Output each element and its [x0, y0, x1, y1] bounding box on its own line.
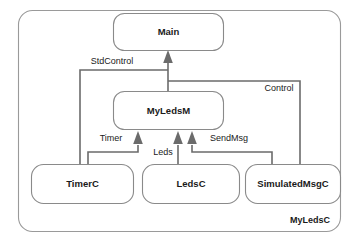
node-simulatedmsgc[interactable]: SimulatedMsgC	[246, 165, 341, 204]
diagram-canvas: Main MyLedsM TimerC LedsC SimulatedMsgC …	[0, 0, 361, 241]
container-myledsc-label: MyLedsC	[290, 215, 331, 225]
edge-label-control: Control	[264, 83, 293, 93]
node-timerc-label: TimerC	[66, 178, 99, 189]
node-ledsc[interactable]: LedsC	[143, 165, 240, 204]
edge-label-timer-group: Timer	[94, 132, 128, 144]
edge-label-sendmsg-group: SendMsg	[204, 132, 254, 144]
edge-label-control-group: Control	[259, 82, 299, 94]
node-timerc[interactable]: TimerC	[32, 165, 134, 204]
edge-label-stdcontrol-group: StdControl	[84, 55, 140, 67]
edge-label-leds: Leds	[153, 147, 173, 157]
node-ledsc-label: LedsC	[176, 178, 205, 189]
edge-label-stdcontrol: StdControl	[91, 56, 134, 66]
node-simulatedmsgc-label: SimulatedMsgC	[257, 178, 328, 189]
edge-label-timer: Timer	[100, 133, 123, 143]
node-main[interactable]: Main	[114, 14, 224, 51]
component-wiring-diagram: Main MyLedsM TimerC LedsC SimulatedMsgC …	[0, 0, 361, 241]
node-myledsm[interactable]: MyLedsM	[114, 92, 224, 130]
node-main-label: Main	[158, 26, 180, 37]
edge-label-sendmsg: SendMsg	[210, 133, 248, 143]
edge-label-leds-group: Leds	[150, 146, 176, 158]
node-myledsm-label: MyLedsM	[147, 105, 190, 116]
